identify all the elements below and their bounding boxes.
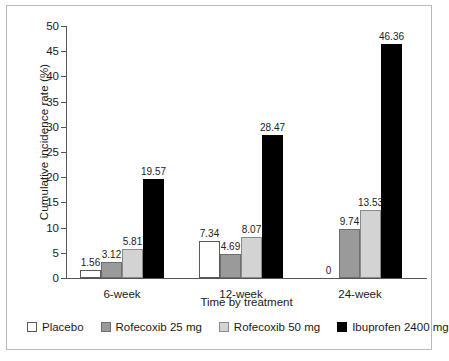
bar [262, 135, 283, 278]
y-axis-tick-label: 10 [46, 222, 59, 234]
bar [381, 44, 402, 278]
y-axis-tick-mark [61, 51, 66, 52]
y-axis-tick-label: 45 [46, 45, 59, 57]
legend-item: Rofecoxib 25 mg [101, 321, 202, 333]
y-axis-tick-mark [61, 177, 66, 178]
bar-value-label: 5.81 [123, 236, 142, 247]
y-axis-tick-label: 50 [46, 20, 59, 32]
bar [339, 229, 360, 278]
bar [122, 249, 143, 278]
legend-item-label: Rofecoxib 50 mg [234, 321, 320, 333]
legend-item-label: Ibuprofen 2400 mg [352, 321, 449, 333]
y-axis-title: Cumulative incidence rate (%) [38, 32, 50, 252]
bar-value-label: 46.36 [379, 31, 404, 42]
bar-value-label: 1.56 [81, 257, 100, 268]
bar-value-label: 3.12 [102, 249, 121, 260]
y-axis-tick-label: 25 [46, 146, 59, 158]
legend-swatch-icon [219, 322, 229, 332]
y-axis-tick-mark [61, 102, 66, 103]
legend-item-label: Rofecoxib 25 mg [116, 321, 202, 333]
legend-item: Ibuprofen 2400 mg [337, 321, 449, 333]
bar-value-label: 8.07 [242, 224, 261, 235]
bar [199, 241, 220, 278]
figure-frame: Cumulative incidence rate (%) 0510152025… [6, 5, 432, 350]
bar-chart: Cumulative incidence rate (%) 0510152025… [7, 6, 433, 351]
bar-value-label: 19.57 [141, 166, 166, 177]
plot-area: 05101520253035404550 1.563.125.8119.577.… [66, 26, 427, 278]
legend-item: Rofecoxib 50 mg [219, 321, 320, 333]
legend-swatch-icon [101, 322, 111, 332]
bar [80, 270, 101, 278]
y-axis-tick-label: 5 [53, 247, 59, 259]
bar [143, 179, 164, 278]
y-axis-tick-mark [61, 76, 66, 77]
chart-legend: PlaceboRofecoxib 25 mgRofecoxib 50 mgIbu… [27, 321, 427, 333]
y-axis-tick-label: 0 [53, 272, 59, 284]
legend-item: Placebo [27, 321, 84, 333]
y-axis-tick-mark [61, 202, 66, 203]
bar [360, 210, 381, 278]
legend-swatch-icon [27, 322, 37, 332]
x-axis-line [66, 278, 427, 279]
legend-swatch-icon [337, 322, 347, 332]
y-axis-tick-mark [61, 278, 66, 279]
y-axis-tick-mark [61, 152, 66, 153]
bar-value-label: 4.69 [221, 241, 240, 252]
y-axis-tick-mark [61, 26, 66, 27]
y-axis-tick-label: 40 [46, 70, 59, 82]
y-axis-tick-label: 20 [46, 171, 59, 183]
bar [101, 262, 122, 278]
bar-value-label: 9.74 [340, 216, 359, 227]
legend-item-label: Placebo [42, 321, 84, 333]
bar-value-label: 7.34 [200, 228, 219, 239]
y-axis-line [66, 26, 67, 278]
y-axis-tick-mark [61, 127, 66, 128]
bar [241, 237, 262, 278]
y-axis-tick-label: 15 [46, 196, 59, 208]
y-axis-tick-mark [61, 253, 66, 254]
bar-value-label: 0 [326, 265, 332, 276]
x-axis-title: Time by treatment [66, 296, 427, 308]
y-axis-tick-label: 35 [46, 96, 59, 108]
bar-value-label: 13.53 [358, 197, 383, 208]
bar [220, 254, 241, 278]
y-axis-tick-label: 30 [46, 121, 59, 133]
y-axis-tick-mark [61, 228, 66, 229]
bar-value-label: 28.47 [260, 122, 285, 133]
